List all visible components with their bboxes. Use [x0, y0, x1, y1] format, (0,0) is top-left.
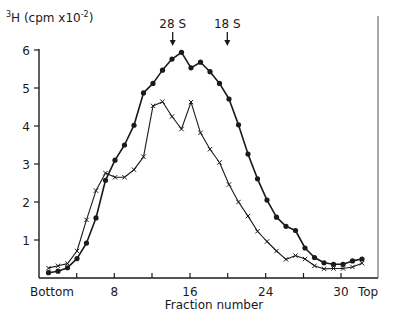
dot-marker-icon: [141, 90, 146, 95]
sucrose-gradient-chart: 3H (cpm x10-2) 123456 Bottom8162430Top 2…: [0, 0, 398, 322]
dot-marker-icon: [122, 142, 127, 147]
series-lines: [49, 52, 363, 272]
y-tick-label: 2: [22, 196, 30, 210]
dot-marker-icon: [302, 245, 307, 250]
cross-marker-icon: [265, 239, 269, 243]
cross-marker-icon: [284, 257, 288, 261]
cross-marker-icon: [227, 182, 231, 186]
dot-marker-icon: [312, 255, 317, 260]
y-tick-label: 4: [22, 120, 30, 134]
dot-marker-icon: [93, 215, 98, 220]
dot-marker-icon: [226, 96, 231, 101]
dot-marker-icon: [198, 60, 203, 65]
cross-marker-icon: [132, 168, 136, 172]
cross-marker-icon: [160, 99, 164, 103]
dot-marker-icon: [274, 215, 279, 220]
cross-marker-icon: [246, 214, 250, 218]
sedimentation-label: 28 S: [159, 17, 186, 31]
dot-marker-icon: [188, 65, 193, 70]
dot-marker-icon: [131, 123, 136, 128]
dot-marker-icon: [293, 228, 298, 233]
dot-marker-icon: [217, 81, 222, 86]
series-line-crosses: [49, 102, 363, 269]
cross-marker-icon: [255, 229, 259, 233]
dot-marker-icon: [236, 122, 241, 127]
y-axis-label: 3H (cpm x10-2): [6, 10, 93, 25]
dot-marker-icon: [84, 240, 89, 245]
cross-marker-icon: [236, 200, 240, 204]
dot-marker-icon: [255, 176, 260, 181]
cross-marker-icon: [274, 249, 278, 253]
x-tick-label: Top: [357, 285, 378, 299]
y-tick-label: 1: [22, 234, 30, 248]
dot-marker-icon: [179, 50, 184, 55]
arrowhead-icon: [170, 40, 176, 46]
dot-marker-icon: [160, 68, 165, 73]
y-ticks: 123456: [22, 44, 39, 248]
x-tick-label: 8: [110, 285, 118, 299]
y-tick-label: 5: [22, 82, 30, 96]
x-ticks: Bottom8162430Top: [30, 273, 378, 299]
cross-marker-icon: [217, 160, 221, 164]
x-tick-label: 24: [258, 285, 273, 299]
dot-marker-icon: [283, 224, 288, 229]
dot-marker-icon: [46, 270, 51, 275]
sedimentation-markers: 28 S18 S: [159, 17, 240, 46]
cross-marker-icon: [208, 147, 212, 151]
x-tick-label: 30: [333, 285, 348, 299]
series-line-dots: [49, 52, 363, 272]
dot-marker-icon: [245, 152, 250, 157]
x-axis-label: Fraction number: [165, 298, 264, 312]
y-tick-label: 3: [22, 158, 30, 172]
dot-marker-icon: [103, 178, 108, 183]
cross-marker-icon: [170, 114, 174, 118]
y-tick-label: 6: [22, 44, 30, 58]
cross-marker-icon: [360, 261, 364, 265]
cross-marker-icon: [103, 171, 107, 175]
arrowhead-icon: [224, 40, 230, 46]
dot-marker-icon: [207, 69, 212, 74]
dot-marker-icon: [112, 158, 117, 163]
dot-marker-icon: [55, 269, 60, 274]
x-tick-label: 16: [182, 285, 197, 299]
dot-marker-icon: [74, 256, 79, 261]
dot-marker-icon: [169, 57, 174, 62]
dot-marker-icon: [350, 258, 355, 263]
sedimentation-label: 18 S: [214, 17, 241, 31]
dot-marker-icon: [321, 260, 326, 265]
dot-marker-icon: [264, 198, 269, 203]
x-tick-label: Bottom: [30, 285, 74, 299]
dot-marker-icon: [150, 81, 155, 86]
series-markers: [46, 50, 365, 276]
